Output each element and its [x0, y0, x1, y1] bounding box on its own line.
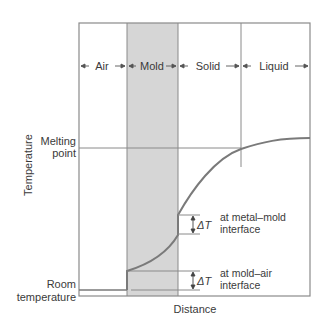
melting-point-label-line1: Melting	[41, 135, 76, 147]
y-axis-label: Temperature	[22, 134, 34, 196]
region-label-mold: Mold	[140, 60, 164, 72]
x-axis-label: Distance	[174, 303, 217, 315]
temperature-distance-diagram: Air Mold Solid Liquid ΔT at metal–mold i…	[0, 0, 326, 326]
mold-air-delta-symbol: ΔT	[196, 275, 212, 287]
region-label-air: Air	[95, 60, 109, 72]
metal-mold-annotation-line2: interface	[220, 223, 260, 235]
region-label-liquid: Liquid	[259, 60, 288, 72]
mold-air-delta-arrow	[191, 272, 195, 289]
melting-point-label-line2: point	[52, 147, 76, 159]
room-temperature-label-line1: Room	[47, 278, 76, 290]
metal-mold-delta-arrow	[191, 216, 195, 233]
mold-air-annotation-line2: interface	[220, 279, 260, 291]
metal-mold-annotation-line1: at metal–mold	[220, 211, 286, 223]
room-temperature-label-line2: temperature	[17, 291, 76, 303]
region-label-solid: Solid	[196, 60, 220, 72]
metal-mold-delta-symbol: ΔT	[196, 219, 212, 231]
mold-air-annotation-line1: at mold–air	[220, 267, 272, 279]
